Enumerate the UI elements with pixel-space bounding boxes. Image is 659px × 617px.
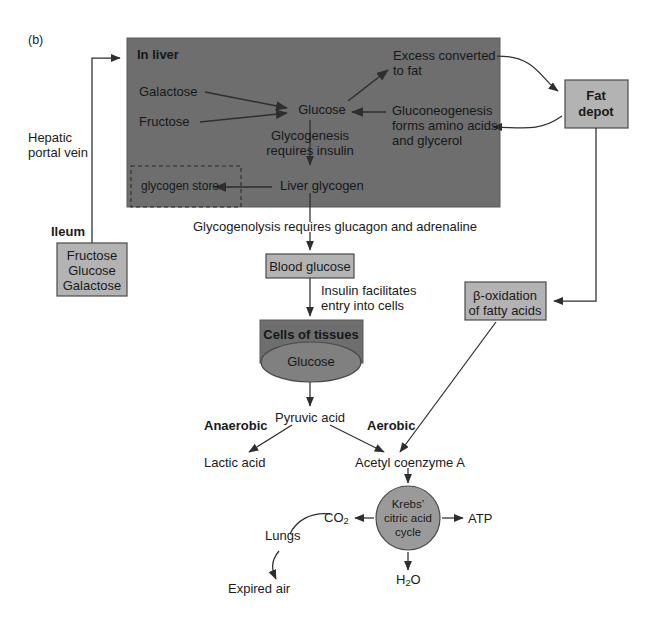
co2-text: CO <box>324 510 344 525</box>
krebs-line2: citric acid <box>384 512 432 526</box>
hepatic-portal-vein-line1: Hepatic <box>28 130 72 145</box>
excess-converted-to-fat-line2: to fat <box>393 63 422 78</box>
glycogenolysis-note: Glycogenolysis requires glucagon and adr… <box>193 219 477 234</box>
co2-label: CO2 <box>324 510 349 527</box>
gluconeogenesis-line3: and glycerol <box>392 133 462 148</box>
cell-glucose-label: Glucose <box>287 354 335 369</box>
water-text: H <box>396 572 405 587</box>
insulin-note-line2: entry into cells <box>321 298 404 313</box>
ileum-label: Ileum <box>51 224 85 239</box>
fat-depot-line1: Fat <box>586 88 606 103</box>
krebs-line1: Krebs’ <box>392 498 425 512</box>
water-tail: O <box>411 572 421 587</box>
co2-subscript: 2 <box>344 516 349 526</box>
liver-galactose-label: Galactose <box>139 84 198 99</box>
atp-label: ATP <box>468 511 492 526</box>
excess-converted-to-fat-line1: Excess converted <box>393 48 496 63</box>
gluconeogenesis-line2: forms amino acids <box>392 118 497 133</box>
lungs-label: Lungs <box>265 528 300 543</box>
aerobic-label: Aerobic <box>367 418 415 433</box>
liver-panel-title: In liver <box>137 47 179 62</box>
ileum-content-galactose: Galactose <box>63 278 122 293</box>
glycogen-store-label: glycogen store <box>141 179 219 193</box>
liver-fructose-label: Fructose <box>139 114 190 129</box>
krebs-line3: cycle <box>395 526 421 540</box>
expired-air-label: Expired air <box>228 581 290 596</box>
anaerobic-label: Anaerobic <box>204 418 268 433</box>
water-label: H2O <box>396 572 421 589</box>
glycogenesis-line1: Glycogenesis <box>271 128 349 143</box>
pyruvic-acid-label: Pyruvic acid <box>275 410 345 425</box>
beta-oxidation-line1: β-oxidation <box>473 288 537 303</box>
beta-oxidation-line2: of fatty acids <box>469 303 542 318</box>
fat-depot-to-beta-oxidation-connector <box>554 128 596 301</box>
ileum-content-fructose: Fructose <box>67 248 118 263</box>
fat-depot-to-liver-curve <box>493 116 562 128</box>
fat-depot-line2: depot <box>578 104 613 119</box>
liver-glucose-label: Glucose <box>298 102 346 117</box>
hepatic-portal-vein-connector <box>92 58 120 243</box>
lungs-to-expired-air-curve <box>273 551 279 579</box>
liver-glycogen-label: Liver glycogen <box>280 178 364 193</box>
metabolic-pathway-diagram: (b) In liver Galactose Fructose Glucose … <box>0 0 659 617</box>
gluconeogenesis-line1: Gluconeogenesis <box>392 103 492 118</box>
hepatic-portal-vein-line2: portal vein <box>28 145 88 160</box>
cells-of-tissues-title: Cells of tissues <box>263 327 358 342</box>
liver-to-fat-depot-curve <box>497 56 558 91</box>
insulin-note-line1: Insulin facilitates <box>321 283 416 298</box>
lactic-acid-label: Lactic acid <box>204 455 265 470</box>
ileum-content-glucose: Glucose <box>68 263 116 278</box>
blood-glucose-label: Blood glucose <box>269 259 351 274</box>
glycogenesis-line2: requires insulin <box>266 143 353 158</box>
panel-label: (b) <box>28 33 43 48</box>
acetyl-coenzyme-a-label: Acetyl coenzyme A <box>355 455 465 470</box>
